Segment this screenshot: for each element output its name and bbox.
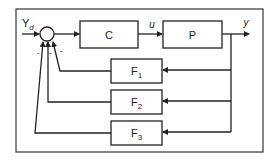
controller-label: C (105, 29, 113, 41)
minus-sign-1: - (37, 48, 40, 57)
control-signal-label: u (149, 19, 155, 30)
plant-label: P (189, 29, 196, 41)
output-label: y (243, 17, 250, 28)
minus-sign-2: - (49, 48, 52, 57)
summing-junction (40, 27, 54, 41)
feedback-return-3 (35, 42, 111, 133)
block-diagram: Yd C u P y F1 F2 F3 - - - (0, 0, 275, 160)
minus-sign-3: - (60, 46, 63, 55)
input-label: Yd (22, 17, 34, 32)
feedback-return-2 (48, 42, 111, 102)
